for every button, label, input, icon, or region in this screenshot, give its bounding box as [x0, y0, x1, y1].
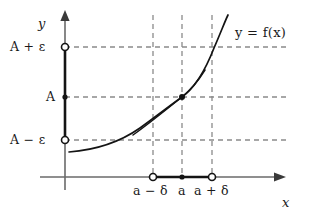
- marker-a: [62, 94, 67, 99]
- x-tick-label-a-plus-delta: a + δ: [194, 185, 229, 198]
- y-axis-arrowhead: [60, 10, 69, 21]
- x-tick-label-a-minus-delta: a − δ: [133, 185, 168, 198]
- marker-a-minus-delta: [150, 174, 157, 181]
- y-tick-label-a: A: [46, 91, 55, 104]
- marker-a-plus-epsilon: [62, 44, 69, 51]
- y-tick-label-a-plus-epsilon: A + ε: [10, 41, 45, 54]
- function-curve: [69, 15, 228, 152]
- curve-label: y = f(x): [235, 26, 286, 39]
- x-axis-label: x: [282, 196, 290, 209]
- marker-a-center: [179, 174, 184, 179]
- marker-limit-point: [179, 94, 185, 100]
- x-axis-arrowhead: [274, 172, 286, 181]
- marker-a-plus-delta: [209, 174, 216, 181]
- function-curve-main: [69, 15, 228, 152]
- horizontal-guide-lines: [65, 47, 286, 140]
- marker-a-minus-epsilon: [62, 137, 69, 144]
- x-tick-label-a: a: [178, 185, 186, 198]
- y-tick-label-a-minus-epsilon: A − ε: [10, 134, 45, 147]
- limit-definition-figure: y x A + ε A A − ε a − δ a a + δ y = f(x): [0, 0, 309, 221]
- y-axis-label: y: [38, 17, 46, 30]
